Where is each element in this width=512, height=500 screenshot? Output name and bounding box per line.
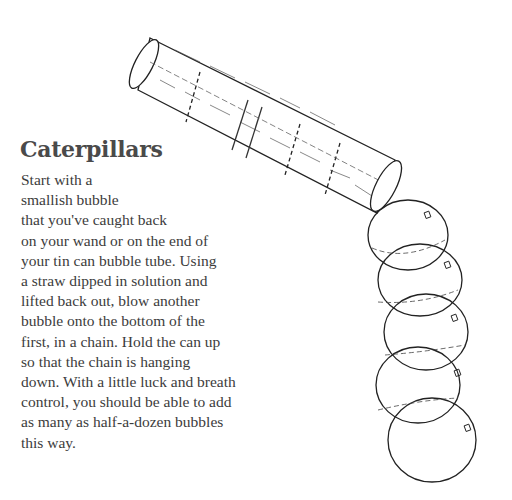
body-line: on your wand or on the end of: [21, 231, 236, 251]
body-line: your tin can bubble tube. Using: [21, 251, 236, 271]
body-line: Start with a: [21, 170, 236, 190]
body-line: smallish bubble: [21, 190, 236, 210]
body-line: bubble onto the bottom of the: [21, 311, 236, 331]
body-line: so that the chain is hanging: [21, 352, 236, 372]
body-line: that you've caught back: [21, 210, 236, 230]
body-paragraph: Start with a smallish bubble that you've…: [21, 170, 236, 453]
body-line: as many as half-a-dozen bubbles: [21, 412, 236, 432]
body-line: first, in a chain. Hold the can up: [21, 332, 236, 352]
section-heading: Caterpillars: [20, 136, 163, 162]
body-line: down. With a little luck and breath: [21, 372, 236, 392]
body-line: this way.: [21, 433, 236, 453]
body-line: lifted back out, blow another: [21, 291, 236, 311]
body-line: a straw dipped in solution and: [21, 271, 236, 291]
body-line: control, you should be able to add: [21, 392, 236, 412]
